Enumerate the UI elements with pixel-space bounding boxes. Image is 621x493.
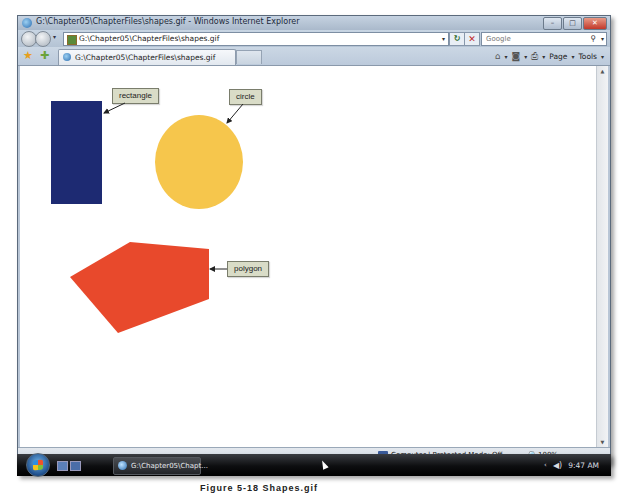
- search-options-dropdown-icon[interactable]: ▾: [601, 33, 604, 45]
- blue-rectangle-shape: [51, 101, 102, 204]
- home-dropdown-icon[interactable]: ▾: [505, 53, 508, 60]
- tools-dropdown-icon[interactable]: ▾: [601, 53, 604, 60]
- clock[interactable]: 9:47 AM: [568, 461, 599, 470]
- minimize-button[interactable]: –: [543, 17, 562, 30]
- refresh-button[interactable]: ↻: [449, 32, 465, 46]
- ie-page-icon: [63, 53, 71, 61]
- window-controls: – □ ✕: [543, 17, 607, 29]
- browser-window: G:\Chapter05\ChapterFiles\shapes.gif - W…: [17, 15, 611, 464]
- taskbar-item-ie[interactable]: G:\Chapter05\Chapt...: [113, 457, 201, 475]
- scroll-up-icon[interactable]: ▲: [597, 68, 608, 74]
- red-polygon-shape: [70, 242, 209, 333]
- navigation-bar: ▾ G:\Chapter05\ChapterFiles\shapes.gif ▾…: [18, 30, 610, 47]
- figure-caption: Figure 5-18 Shapes.gif: [200, 483, 318, 493]
- feeds-icon[interactable]: ◙: [512, 51, 521, 61]
- maximize-button[interactable]: □: [563, 17, 582, 30]
- vertical-scrollbar[interactable]: ▲ ▼: [596, 66, 608, 447]
- tab-label: G:\Chapter05\ChapterFiles\shapes.gif: [75, 50, 215, 65]
- circle-callout: circle: [229, 89, 262, 105]
- taskbar-item-label: G:\Chapter05\Chapt...: [131, 458, 208, 474]
- switch-windows-icon[interactable]: [70, 461, 81, 471]
- ie-logo-icon: [22, 18, 32, 28]
- add-to-favorites-icon[interactable]: ✚: [40, 49, 49, 62]
- polygon-callout: polygon: [227, 261, 269, 277]
- search-icon[interactable]: ⚲: [590, 33, 596, 45]
- show-hidden-icons-icon[interactable]: ‹: [544, 461, 547, 469]
- feeds-dropdown-icon[interactable]: ▾: [524, 53, 527, 60]
- yellow-circle-shape: [155, 115, 243, 209]
- scroll-down-icon[interactable]: ▼: [597, 439, 608, 445]
- show-desktop-icon[interactable]: [57, 461, 68, 471]
- tools-menu-button[interactable]: Tools: [579, 52, 597, 61]
- recent-pages-dropdown-icon[interactable]: ▾: [53, 33, 56, 40]
- search-box[interactable]: Google ⚲ ▾: [481, 32, 607, 46]
- volume-icon[interactable]: ◀): [553, 461, 562, 470]
- search-input[interactable]: Google: [486, 33, 511, 45]
- rectangle-callout: rectangle: [112, 88, 159, 104]
- print-icon[interactable]: ⎙: [531, 51, 538, 62]
- tab-bar: ★ ✚ G:\Chapter05\ChapterFiles\shapes.gif…: [18, 47, 610, 66]
- forward-button[interactable]: [35, 31, 51, 47]
- window-title: G:\Chapter05\ChapterFiles\shapes.gif - W…: [36, 17, 300, 26]
- new-tab-button[interactable]: [236, 50, 262, 64]
- print-dropdown-icon[interactable]: ▾: [542, 53, 545, 60]
- page-image-icon: [67, 35, 77, 45]
- page-menu-button[interactable]: Page: [549, 52, 567, 61]
- address-dropdown-icon[interactable]: ▾: [442, 33, 445, 45]
- page-dropdown-icon[interactable]: ▾: [571, 53, 574, 60]
- home-icon[interactable]: ⌂: [495, 51, 501, 61]
- ie-logo-icon: [118, 461, 127, 470]
- windows-logo-icon: [33, 459, 43, 470]
- tab-shapes-gif[interactable]: G:\Chapter05\ChapterFiles\shapes.gif: [58, 49, 236, 65]
- address-bar[interactable]: G:\Chapter05\ChapterFiles\shapes.gif ▾: [63, 32, 449, 46]
- system-tray: ‹ ◀) 9:47 AM: [544, 454, 599, 476]
- command-bar: ⌂ ▾ ◙ ▾ ⎙ ▾ Page ▾ Tools ▾: [495, 49, 604, 63]
- title-bar[interactable]: G:\Chapter05\ChapterFiles\shapes.gif - W…: [18, 16, 610, 30]
- favorites-center-icon[interactable]: ★: [23, 49, 33, 62]
- start-button[interactable]: [26, 453, 50, 477]
- address-input[interactable]: G:\Chapter05\ChapterFiles\shapes.gif: [79, 33, 219, 45]
- mouse-cursor-icon: [319, 459, 328, 470]
- close-button[interactable]: ✕: [583, 17, 607, 30]
- stop-button[interactable]: ✕: [464, 32, 480, 46]
- windows-taskbar: G:\Chapter05\Chapt... ‹ ◀) 9:47 AM: [17, 454, 611, 476]
